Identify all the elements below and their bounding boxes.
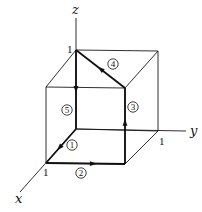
arrow-icon (74, 86, 79, 93)
cube-edge (76, 50, 158, 51)
step-label-1: 1 (67, 140, 77, 150)
path-segment-2 (46, 163, 125, 164)
cube-edge (125, 51, 158, 88)
axis-label-x: x (15, 191, 23, 206)
labels: xyz12345111 (15, 2, 198, 206)
cube-edge (46, 50, 76, 87)
arrow-icon (123, 119, 128, 126)
step-number: 1 (70, 140, 75, 150)
arrow-icon (90, 161, 97, 166)
cube-edge (46, 87, 125, 88)
step-label-4: 4 (108, 59, 118, 69)
step-label-5: 5 (62, 105, 72, 115)
tick-label-y: 1 (159, 135, 165, 147)
step-number: 5 (65, 105, 70, 115)
axis-label-z: z (71, 2, 79, 17)
cube-diagram-svg: xyz12345111 (0, 0, 202, 212)
tick-label-z: 1 (67, 43, 73, 55)
axis-label-y: y (189, 123, 198, 138)
step-number: 2 (79, 168, 84, 178)
step-number: 4 (111, 59, 116, 69)
step-label-2: 2 (76, 168, 86, 178)
tick-label-x: 1 (43, 166, 49, 178)
unit-cube-diagram: xyz12345111 (0, 0, 202, 212)
step-label-3: 3 (128, 102, 138, 112)
step-number: 3 (131, 102, 136, 112)
cube-edge (125, 131, 158, 164)
